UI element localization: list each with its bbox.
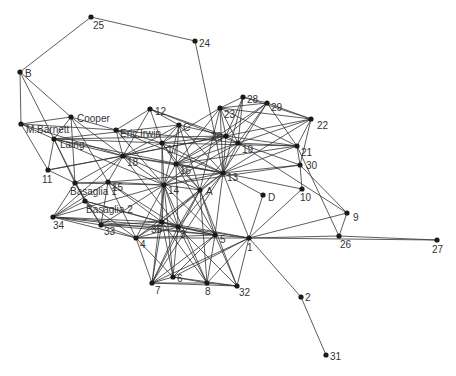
edge-B-MBarnett — [20, 72, 21, 124]
node-27 — [434, 237, 439, 242]
node-label: 17 — [167, 144, 179, 155]
node-17 — [159, 140, 164, 145]
edge-22-30 — [300, 119, 311, 165]
node-label: B — [25, 68, 32, 79]
node-label: 34 — [53, 220, 65, 231]
node-label: A — [206, 186, 213, 197]
node-7 — [149, 280, 154, 285]
edge-19-9 — [238, 143, 347, 213]
node-10 — [299, 186, 304, 191]
node-13 — [220, 170, 225, 175]
node-25 — [88, 14, 93, 19]
node-label: 2 — [305, 292, 311, 303]
node-label: 20 — [211, 131, 223, 142]
node-26 — [336, 233, 341, 238]
node-label: 13 — [227, 172, 239, 183]
node-label: 27 — [432, 244, 444, 255]
edge-13-5 — [215, 173, 223, 235]
node-label: Basaglia 1 — [70, 186, 117, 197]
node-Basaglia2 — [82, 198, 87, 203]
node-Cooper — [68, 114, 73, 119]
edge-25-24 — [91, 17, 195, 41]
node-EricIrwin — [113, 127, 118, 132]
node-15 — [105, 179, 110, 184]
node-label: 26 — [340, 239, 352, 250]
edge-1-6 — [173, 238, 249, 277]
node-label: 21 — [301, 147, 313, 158]
node-23 — [217, 105, 222, 110]
node-label: 14 — [168, 185, 180, 196]
node-16 — [173, 161, 178, 166]
node-label: 3 — [180, 229, 186, 240]
node-label: 6 — [177, 273, 183, 284]
node-Laing — [51, 136, 56, 141]
node-label: D — [268, 192, 275, 203]
node-label: 5 — [220, 234, 226, 245]
node-21 — [294, 143, 299, 148]
node-28 — [240, 94, 245, 99]
edge-3-6 — [173, 227, 178, 277]
node-label: 7 — [155, 285, 161, 296]
node-12 — [147, 106, 152, 111]
edge-9-26 — [339, 213, 347, 236]
node-label: 25 — [93, 20, 105, 31]
node-Basaglia1 — [72, 180, 77, 185]
edge-25-B — [20, 17, 91, 72]
node-label: C — [183, 122, 190, 133]
node-11 — [45, 167, 50, 172]
edge-9-1 — [249, 213, 347, 238]
node-label: 9 — [353, 212, 359, 223]
node-label: 22 — [317, 120, 329, 131]
node-14 — [161, 182, 166, 187]
edge-2-31 — [301, 297, 326, 355]
node-label: 24 — [199, 38, 211, 49]
node-label: 8 — [205, 286, 211, 297]
node-label: 16 — [180, 165, 192, 176]
node-label: 11 — [42, 174, 53, 185]
edge-1-2 — [249, 238, 301, 297]
node-A — [197, 187, 202, 192]
node-label: 33 — [104, 226, 116, 237]
node-label: 23 — [224, 109, 236, 120]
node-label: 30 — [306, 160, 318, 171]
network-graph: 2524BM.BarnettCooperLaingEric.Irwin12C17… — [0, 0, 456, 376]
edge-Laing-11 — [48, 139, 54, 170]
node-label: M.Barnett — [26, 124, 70, 135]
node-label: Cooper — [77, 113, 110, 124]
node-5 — [212, 232, 217, 237]
node-C — [176, 122, 181, 127]
edge-23-28 — [220, 97, 243, 108]
node-20 — [223, 133, 228, 138]
edge-30-9 — [300, 165, 347, 213]
edge-26-1 — [249, 236, 339, 238]
node-29 — [264, 100, 269, 105]
node-label: Basaglia 2 — [86, 204, 133, 215]
node-label: 32 — [239, 287, 251, 298]
node-22 — [308, 116, 313, 121]
node-34 — [50, 214, 55, 219]
node-D — [260, 192, 265, 197]
node-4 — [133, 235, 138, 240]
node-label: 4 — [140, 239, 146, 250]
node-9 — [344, 210, 349, 215]
node-19 — [235, 140, 240, 145]
node-label: 29 — [271, 102, 283, 113]
node-30 — [297, 162, 302, 167]
node-33 — [98, 222, 103, 227]
edge-5-32 — [215, 235, 237, 286]
node-label: 1 — [247, 242, 253, 253]
node-6 — [170, 274, 175, 279]
node-label: Eric.Irwin — [120, 128, 161, 139]
node-8 — [204, 280, 209, 285]
node-1 — [246, 235, 251, 240]
edge-30-10 — [300, 165, 302, 189]
edge-21-16 — [176, 146, 297, 164]
node-MBarnett — [18, 121, 23, 126]
node-label: 18 — [127, 157, 139, 168]
node-18 — [120, 153, 125, 158]
node-label: 35 — [151, 224, 163, 235]
node-label: 12 — [155, 106, 167, 117]
node-24 — [192, 38, 197, 43]
node-31 — [323, 352, 328, 357]
node-label: 31 — [330, 351, 342, 362]
